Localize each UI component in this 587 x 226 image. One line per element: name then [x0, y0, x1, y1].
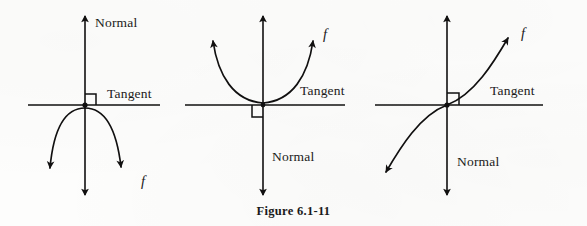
panel-right-diagram: f Tangent Normal	[375, 16, 543, 195]
normal-label-middle: Normal	[272, 149, 314, 164]
tangent-label-left: Tangent	[107, 86, 152, 101]
curve-left-branch-middle	[213, 41, 263, 103]
normal-label-left: Normal	[95, 15, 137, 30]
figure-container: Normal Tangent f f Tangent Normal	[0, 0, 587, 226]
curve-right-branch-left	[85, 108, 121, 167]
tangent-label-middle: Tangent	[300, 83, 345, 98]
tangent-label-right: Tangent	[490, 83, 535, 98]
origin-point-left	[82, 102, 87, 107]
curve-left-branch-left	[50, 108, 85, 168]
function-label-left: f	[141, 173, 147, 189]
right-angle-marker-middle	[252, 105, 263, 117]
normal-label-right: Normal	[457, 154, 499, 169]
function-label-right: f	[521, 25, 527, 41]
figure-caption: Figure 6.1-11	[257, 204, 331, 218]
curve-lower-branch-right	[386, 105, 447, 172]
function-label-middle: f	[323, 26, 329, 42]
panel-left-diagram: Normal Tangent f	[28, 15, 160, 195]
panel-middle-diagram: f Tangent Normal	[185, 16, 345, 195]
figure-svg: Normal Tangent f f Tangent Normal	[0, 0, 587, 226]
